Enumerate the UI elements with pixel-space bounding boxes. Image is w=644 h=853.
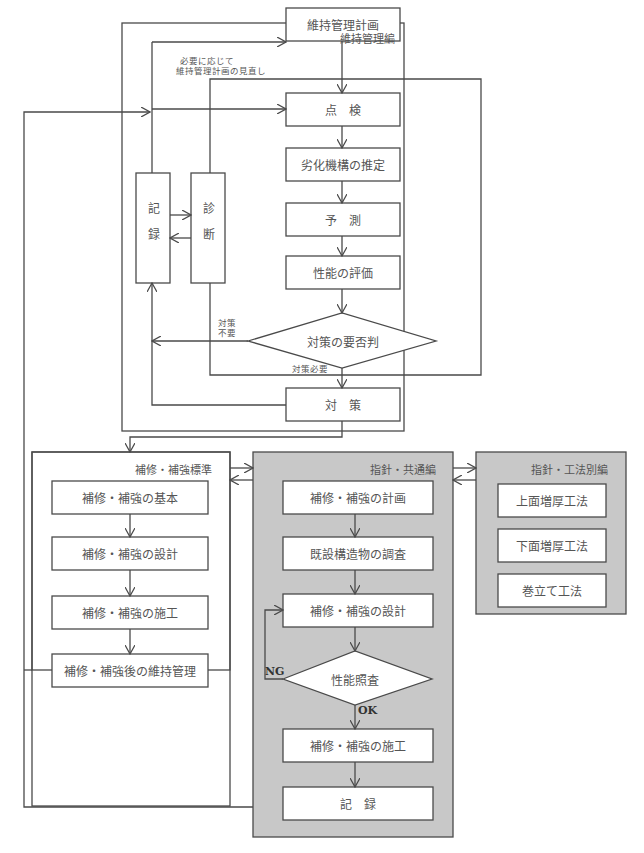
mechanism-box[interactable]: 劣化機構の推定 xyxy=(286,148,400,181)
ok-label: OK xyxy=(358,704,377,717)
record-box[interactable]: 記録 xyxy=(136,173,170,283)
method-box-jacketing[interactable]: 巻立て工法 xyxy=(498,574,606,607)
standard-box-maintenance[interactable]: 補修・補強後の維持管理 xyxy=(52,654,208,687)
countermeasure-box[interactable]: 対 策 xyxy=(286,388,400,421)
check-diamond[interactable]: 性能照査 xyxy=(300,666,410,692)
methods-section-title: 指針・工法別編 xyxy=(531,461,608,477)
standard-box-construction[interactable]: 補修・補強の施工 xyxy=(52,596,208,629)
standard-box-design[interactable]: 補修・補強の設計 xyxy=(52,537,208,570)
inspection-box[interactable]: 点 検 xyxy=(286,93,400,126)
not-needed-line2: 不要 xyxy=(218,328,236,339)
common-box-record[interactable]: 記 録 xyxy=(283,787,433,820)
common-section-title: 指針・共通編 xyxy=(370,461,436,477)
ng-label: NG xyxy=(265,665,284,678)
standard-box-basics[interactable]: 補修・補強の基本 xyxy=(52,481,208,514)
method-box-top-overlay[interactable]: 上面増厚工法 xyxy=(498,484,606,517)
prediction-box[interactable]: 予 測 xyxy=(286,203,400,236)
needed-note: 対策必要 xyxy=(292,364,328,375)
standard-section-title: 補修・補強標準 xyxy=(135,461,212,477)
common-box-plan[interactable]: 補修・補強の計画 xyxy=(283,481,433,514)
common-box-design[interactable]: 補修・補強の設計 xyxy=(283,594,433,627)
diagnosis-box[interactable]: 診断 xyxy=(191,173,225,283)
evaluation-box[interactable]: 性能の評価 xyxy=(286,256,400,289)
method-box-bottom-overlay[interactable]: 下面増厚工法 xyxy=(498,529,606,562)
review-note-line2: 維持管理計画の見直し xyxy=(176,66,266,77)
common-box-construction[interactable]: 補修・補強の施工 xyxy=(283,729,433,762)
plan-box[interactable]: 維持管理計画 xyxy=(286,8,400,41)
common-box-survey[interactable]: 既設構造物の調査 xyxy=(283,537,433,570)
countermeasure-to-standard-line xyxy=(130,420,342,452)
decision-diamond[interactable]: 対策の要否判 xyxy=(286,328,400,354)
flowchart-canvas xyxy=(0,0,644,853)
